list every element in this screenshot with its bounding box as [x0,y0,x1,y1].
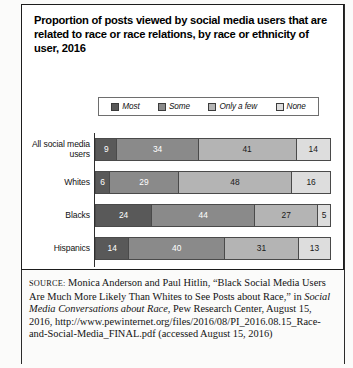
bar-segment: 14 [96,238,129,259]
bar-segment: 16 [292,172,330,193]
bar-segment-value: 40 [172,244,181,252]
source-label: SOURCE: [29,279,65,288]
bar-segment-value: 13 [310,244,319,252]
legend-item-label: Some [169,102,190,111]
bar-segment: 6 [96,172,110,193]
legend-swatch-icon [158,103,166,111]
bar-segment: 48 [179,172,292,193]
bar-segment-value: 5 [322,211,327,219]
bar-segment-value: 6 [100,178,105,186]
bar-segment: 44 [152,205,255,226]
bar-segment-value: 44 [198,211,207,219]
bar-segment-value: 34 [153,145,162,153]
legend-item-label: Most [122,102,139,111]
bar-segment-value: 27 [282,211,291,219]
source-note: SOURCE: Monica Anderson and Paul Hitlin,… [29,277,337,341]
bar-segment: 41 [199,139,297,160]
bar-segment: 9 [96,139,117,160]
stacked-bar: 2444275 [95,204,331,227]
chart-row: Whites6294816 [22,170,345,194]
bar-segment-value: 24 [119,211,128,219]
category-label: Hispanics [26,243,90,253]
bar-segment: 34 [117,139,198,160]
bar-segment-value: 14 [309,145,318,153]
stacked-bar: 14403113 [95,237,331,260]
legend-item-label: None [287,102,306,111]
category-label: Whites [26,177,90,187]
legend-item: Some [158,102,190,111]
stacked-bar: 9344114 [95,138,331,161]
category-label: Blacks [26,210,90,220]
bar-segment-value: 29 [139,178,148,186]
bar-segment-value: 16 [306,178,315,186]
figure-page: Proportion of posts viewed by social med… [0,0,353,368]
bar-segment: 29 [110,172,179,193]
figure-box: Proportion of posts viewed by social med… [21,4,344,270]
legend-item-label: Only a few [219,102,257,111]
source-text-1: Monica Anderson and Paul Hitlin, “Black … [29,277,326,302]
bar-segment: 24 [96,205,152,226]
bar-segment: 13 [299,238,330,259]
bar-segment: 14 [297,139,330,160]
bar-segment-value: 48 [230,178,239,186]
chart-plot-area: All social media users9344114Whites62948… [22,133,345,269]
legend-item: Most [111,102,139,111]
chart-row: Blacks2444275 [22,203,345,227]
bar-segment: 31 [225,238,299,259]
chart-title: Proportion of posts viewed by social med… [34,13,330,56]
bar-segment: 27 [255,205,318,226]
bar-segment-value: 41 [242,145,251,153]
chart-row: All social media users9344114 [22,137,345,161]
category-label: All social media users [26,139,90,160]
bar-segment: 40 [129,238,225,259]
legend-item: None [276,102,306,111]
bar-segment-value: 9 [104,145,109,153]
legend-item: Only a few [208,102,257,111]
bar-segment-value: 31 [257,244,266,252]
chart-row: Hispanics14403113 [22,236,345,260]
legend-swatch-icon [276,103,284,111]
stacked-bar: 6294816 [95,171,331,194]
chart-legend: MostSomeOnly a fewNone [98,97,319,116]
legend-swatch-icon [111,103,119,111]
bar-segment: 5 [318,205,330,226]
legend-swatch-icon [208,103,216,111]
bar-segment-value: 14 [108,244,117,252]
